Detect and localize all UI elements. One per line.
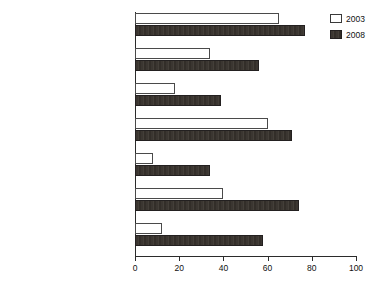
x-axis-tick <box>135 257 136 261</box>
bar-2008 <box>135 200 299 211</box>
x-axis-tick <box>223 257 224 261</box>
bar-2003 <box>135 188 223 199</box>
legend-label: 2003 <box>346 14 365 24</box>
bar-2008 <box>135 60 259 71</box>
legend-label: 2008 <box>346 30 365 40</box>
x-axis-tick-label: 80 <box>297 263 327 273</box>
hollow-square-icon <box>330 14 342 23</box>
category-group: Customer satisfaction <box>135 222 356 257</box>
legend-item: 2008 <box>330 28 388 41</box>
bar-2003 <box>135 153 153 164</box>
x-axis-ticks: 020406080100 <box>135 257 357 277</box>
bar-2003 <box>135 223 162 234</box>
x-axis-tick-label: 20 <box>164 263 194 273</box>
bar-2008 <box>135 165 210 176</box>
x-axis-tick <box>356 257 357 261</box>
bar-2008 <box>135 95 221 106</box>
category-group: Received outbound campaigns <box>135 117 356 152</box>
bar-2003 <box>135 83 175 94</box>
chart-legend: 20032008 <box>330 12 388 44</box>
x-axis-tick-label: 60 <box>253 263 283 273</box>
x-axis-tick <box>268 257 269 261</box>
bar-2008 <box>135 130 292 141</box>
category-group: Transaction data <box>135 12 356 47</box>
x-axis-tick-label: 0 <box>120 263 150 273</box>
bar-chart: Transaction dataDemographicsLifestyleRec… <box>0 0 390 281</box>
x-axis-tick-label: 40 <box>208 263 238 273</box>
category-group: Lifestyle <box>135 82 356 117</box>
bar-2003 <box>135 48 210 59</box>
category-group: Share of wallet <box>135 152 356 187</box>
bar-2008 <box>135 235 263 246</box>
bar-2008 <box>135 25 305 36</box>
bar-2003 <box>135 13 279 24</box>
x-axis-tick <box>312 257 313 261</box>
bar-2003 <box>135 118 268 129</box>
filled-square-icon <box>330 30 342 39</box>
category-group: Customer initiated interactions <box>135 187 356 222</box>
legend-item: 2003 <box>330 12 388 25</box>
x-axis-tick <box>179 257 180 261</box>
x-axis-tick-label: 100 <box>341 263 371 273</box>
plot-area: Transaction dataDemographicsLifestyleRec… <box>135 12 356 257</box>
category-group: Demographics <box>135 47 356 82</box>
